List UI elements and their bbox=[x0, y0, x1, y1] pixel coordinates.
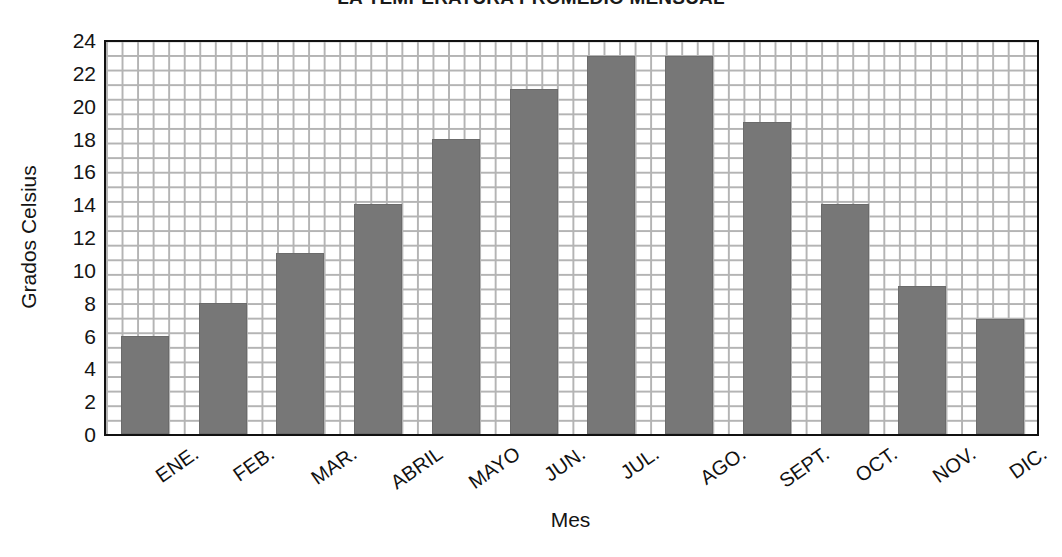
bar bbox=[276, 253, 324, 434]
x-axis-tick: ABRIL bbox=[337, 434, 415, 504]
bar bbox=[199, 303, 247, 434]
bar bbox=[510, 89, 558, 434]
bar bbox=[743, 122, 791, 434]
x-axis-tick: NOV. bbox=[882, 434, 960, 504]
y-axis-tick-label: 24 bbox=[40, 30, 96, 51]
y-axis-tick-label: 2 bbox=[40, 391, 96, 412]
y-axis-tick-label: 22 bbox=[40, 62, 96, 83]
y-axis-tick-label: 18 bbox=[40, 128, 96, 149]
x-axis-tick-labels: ENE.FEB.MAR.ABRILMAYOJUN.JUL.AGO.SEPT.OC… bbox=[104, 434, 1037, 504]
bar bbox=[354, 204, 402, 434]
y-axis-tick-labels: 024681012141618202224 bbox=[40, 0, 96, 557]
bar bbox=[121, 336, 169, 435]
y-axis-tick-label: 10 bbox=[40, 259, 96, 280]
y-axis-tick-label: 20 bbox=[40, 95, 96, 116]
y-axis-tick-label: 6 bbox=[40, 325, 96, 346]
x-axis-tick: JUL. bbox=[571, 434, 649, 504]
x-axis-tick: SEPT. bbox=[726, 434, 804, 504]
plot-area bbox=[104, 40, 1039, 436]
x-axis-tick: ENE. bbox=[104, 434, 182, 504]
y-axis-tick-label: 14 bbox=[40, 194, 96, 215]
x-axis-title: Mes bbox=[104, 508, 1037, 532]
x-axis-tick: FEB. bbox=[182, 434, 260, 504]
bar bbox=[976, 319, 1024, 434]
x-axis-tick-label: DIC. bbox=[1005, 442, 1051, 484]
x-axis-tick: MAR. bbox=[260, 434, 338, 504]
y-axis-tick-label: 4 bbox=[40, 358, 96, 379]
y-axis-tick-label: 8 bbox=[40, 292, 96, 313]
bar bbox=[432, 139, 480, 435]
y-axis-tick-label: 0 bbox=[40, 424, 96, 445]
x-axis-tick: DIC. bbox=[959, 434, 1037, 504]
bar bbox=[821, 204, 869, 434]
x-axis-tick: OCT. bbox=[804, 434, 882, 504]
x-axis-tick: MAYO bbox=[415, 434, 493, 504]
bar bbox=[898, 286, 946, 434]
bar bbox=[587, 56, 635, 434]
x-axis-tick: AGO. bbox=[648, 434, 726, 504]
bar-series bbox=[106, 40, 1039, 434]
bar bbox=[665, 56, 713, 434]
bar-chart: LA TEMPERATURA PROMEDIO MENSUAL Grados C… bbox=[0, 0, 1062, 557]
y-axis-tick-label: 12 bbox=[40, 227, 96, 248]
x-axis-tick: JUN. bbox=[493, 434, 571, 504]
chart-title: LA TEMPERATURA PROMEDIO MENSUAL bbox=[0, 0, 1062, 9]
y-axis-tick-label: 16 bbox=[40, 161, 96, 182]
